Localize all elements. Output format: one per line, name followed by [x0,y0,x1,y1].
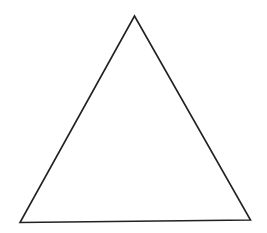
triangle-shape [20,16,251,223]
triangle-diagram [0,0,267,233]
diagram-canvas [0,0,267,233]
